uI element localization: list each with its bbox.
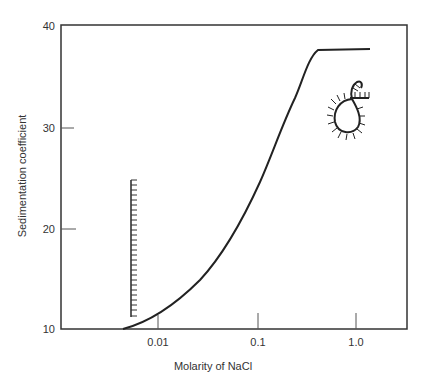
x-tick-label: 0.01	[147, 336, 168, 348]
x-tick-label: 1.0	[348, 336, 363, 348]
data-curve	[123, 49, 370, 329]
y-axis-label: Sedimentation coefficient	[16, 115, 28, 238]
y-tick-label: 10	[43, 323, 55, 335]
extended-dna-icon	[131, 180, 137, 317]
x-axis-label: Molarity of NaCl	[174, 360, 252, 372]
y-tick-label: 30	[43, 122, 55, 134]
plot-frame	[61, 25, 407, 329]
compact-dna-icon	[327, 81, 369, 140]
y-tick-label: 40	[43, 20, 55, 32]
y-tick-label: 20	[43, 223, 55, 235]
x-tick-label: 0.1	[250, 336, 265, 348]
chart: 40 30 20 10 0.01 0.1 1.0 Molarity of NaC…	[0, 0, 425, 378]
